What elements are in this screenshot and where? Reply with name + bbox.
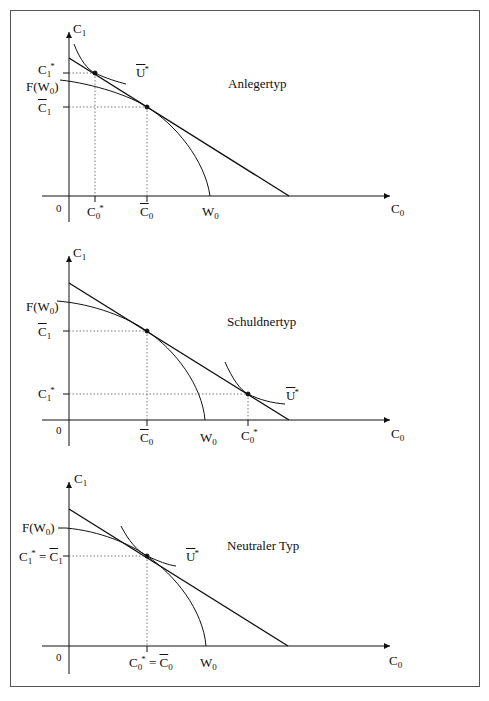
origin-label: 0 bbox=[56, 425, 62, 436]
y-axis-label: C1 bbox=[73, 246, 86, 259]
tick-c1-bar: C1 bbox=[38, 325, 51, 338]
production-frontier bbox=[66, 528, 206, 646]
optimal-point bbox=[93, 71, 97, 75]
diagram-canvas bbox=[0, 0, 489, 701]
panel-schuldnertyp bbox=[42, 256, 390, 446]
tick-w0: W0 bbox=[202, 205, 219, 218]
x-axis-label: C0 bbox=[391, 427, 404, 440]
panel-title: Neutraler Typ bbox=[227, 538, 299, 554]
panel-title: Anlegertyp bbox=[228, 76, 286, 92]
x-axis-label: C0 bbox=[391, 202, 404, 215]
indifference-curve bbox=[225, 362, 285, 404]
panel-neutraler-typ bbox=[42, 482, 390, 674]
panel-anlegertyp bbox=[42, 32, 390, 222]
tick-w0: W0 bbox=[200, 656, 217, 669]
indifference-curve-label: U* bbox=[286, 389, 299, 402]
tick-c1-bar: C1 bbox=[38, 101, 51, 114]
tick-c1-star: C1* bbox=[38, 63, 55, 76]
production-point bbox=[145, 329, 149, 333]
tick-c0-bar: C0 bbox=[140, 431, 153, 444]
optimal-point bbox=[145, 554, 149, 558]
production-point bbox=[145, 105, 149, 109]
tick-c1-star: C1* bbox=[38, 387, 55, 400]
production-frontier bbox=[60, 80, 210, 196]
tick-c0-star-eq-c0-bar: C0* = C0 bbox=[129, 656, 173, 669]
panel-title: Schuldnertyp bbox=[227, 314, 296, 330]
optimal-point bbox=[246, 392, 250, 396]
y-axis-label: C1 bbox=[74, 472, 87, 485]
tick-f-w0: F(W0) bbox=[26, 80, 59, 93]
tick-w0: W0 bbox=[200, 431, 217, 444]
origin-label: 0 bbox=[56, 652, 62, 663]
y-axis-label: C1 bbox=[73, 22, 86, 35]
indifference-curve-label: U* bbox=[136, 66, 149, 79]
tick-c0-star: C0* bbox=[87, 205, 104, 218]
capital-market-line bbox=[69, 283, 289, 420]
tick-f-w0: F(W0) bbox=[22, 521, 55, 534]
indifference-curve-label: U* bbox=[186, 550, 199, 563]
tick-c1-star-eq-c1-bar: C1* = C1 bbox=[19, 550, 63, 563]
tick-f-w0: F(W0) bbox=[26, 300, 59, 313]
x-axis-label: C0 bbox=[389, 654, 402, 667]
tick-c0-star: C0* bbox=[241, 429, 258, 442]
origin-label: 0 bbox=[56, 203, 62, 214]
production-frontier bbox=[57, 301, 205, 420]
capital-market-line bbox=[69, 509, 288, 646]
tick-c0-bar: C0 bbox=[140, 205, 153, 218]
